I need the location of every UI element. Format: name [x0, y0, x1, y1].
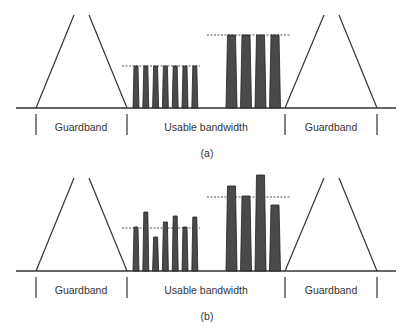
narrow-carrier-bar [133, 66, 139, 108]
narrow-carrier-bar [153, 237, 159, 271]
panel-b: Guardband Usable bandwidth Guardband (b) [16, 175, 396, 322]
wide-carrier-bar [241, 35, 252, 108]
left-guard-filter-edge [36, 178, 74, 271]
usable-bandwidth-label: Usable bandwidth [164, 121, 248, 133]
narrow-carrier-bar [162, 222, 168, 271]
carrier-bars [133, 35, 281, 108]
narrow-carrier-bar [172, 216, 178, 271]
wide-carrier-bar [255, 175, 266, 271]
narrow-carrier-bar [192, 217, 198, 271]
usable-bandwidth-label: Usable bandwidth [164, 284, 248, 296]
wide-carrier-bar [226, 35, 237, 108]
wide-carrier-bar [241, 196, 252, 271]
narrow-carrier-bar [153, 66, 159, 108]
narrow-carrier-bar [162, 66, 168, 108]
left-guard-filter-edge [89, 178, 127, 271]
left-guard-filter-edge [89, 15, 127, 108]
wide-carrier-bar [270, 205, 281, 271]
right-guard-filter-edge [285, 178, 324, 271]
narrow-carrier-bar [182, 227, 188, 271]
narrow-carrier-bar [182, 66, 188, 108]
caption-a: (a) [201, 147, 214, 159]
right-guard-filter-edge [339, 178, 377, 271]
narrow-carrier-bar [192, 66, 198, 108]
left-guardband-label: Guardband [55, 284, 108, 296]
narrow-carrier-bar [133, 227, 139, 271]
left-guardband-label: Guardband [55, 121, 108, 133]
caption-b: (b) [201, 310, 214, 322]
right-guardband-label: Guardband [305, 121, 358, 133]
wide-carrier-bar [255, 35, 266, 108]
narrow-carrier-bar [172, 66, 178, 108]
right-guard-filter-edge [285, 15, 324, 108]
right-guardband-label: Guardband [305, 284, 358, 296]
left-guard-filter-edge [36, 15, 74, 108]
wide-carrier-bar [270, 35, 281, 108]
narrow-carrier-bar [143, 212, 149, 271]
carrier-bars [133, 175, 281, 271]
wide-carrier-bar [226, 186, 237, 271]
spectrum-diagram: Guardband Usable bandwidth Guardband (a)… [0, 0, 413, 335]
panel-a: Guardband Usable bandwidth Guardband (a) [16, 15, 396, 159]
narrow-carrier-bar [143, 66, 149, 108]
right-guard-filter-edge [339, 15, 377, 108]
